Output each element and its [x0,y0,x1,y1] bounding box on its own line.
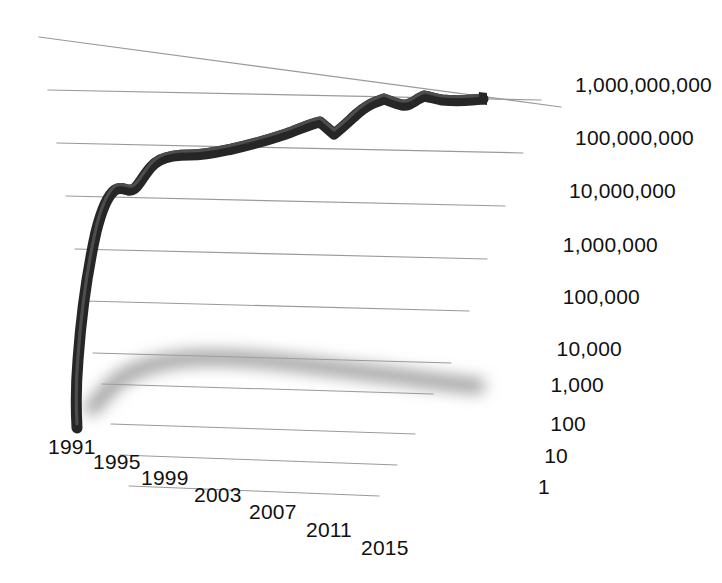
gridline-100 [111,424,415,434]
y-axis-tick-label: 1 [538,476,550,497]
data-line-end-cap [479,92,487,105]
y-axis-tick-label: 1,000,000,000 [575,74,712,95]
y-axis-tick-label: 10,000 [557,338,622,359]
chart-container: 1,000,000,000 100,000,000 10,000,000 1,0… [0,0,722,583]
y-axis-tick-label: 1,000,000 [563,234,658,255]
y-axis-tick-label: 10,000,000 [569,180,676,201]
curve-drop-shadow [92,358,478,408]
x-axis-tick-label: 2007 [249,501,297,522]
y-axis-tick-label: 100,000 [563,286,640,307]
y-axis-tick-label: 100 [550,413,586,434]
x-axis-tick-label: 2003 [194,484,242,505]
x-axis-tick-label: 1991 [48,436,96,457]
y-axis-tick-label: 1,000 [550,374,604,395]
gridline-100000 [84,301,469,311]
x-axis-tick-label: 1999 [141,467,189,488]
y-axis-tick-label: 100,000,000 [575,127,694,148]
y-axis-tick-label: 10 [544,445,568,466]
x-axis-tick-label: 2015 [361,537,409,558]
x-axis-tick-label: 1995 [93,451,141,472]
x-axis-tick-label: 2011 [306,519,352,540]
gridline-100000000 [57,143,523,153]
gridline-10000000 [66,196,505,206]
gridline-1000 [102,384,433,394]
gridline-1000000 [75,249,487,259]
gridline-10 [120,455,397,465]
gridlines-group [39,37,561,496]
